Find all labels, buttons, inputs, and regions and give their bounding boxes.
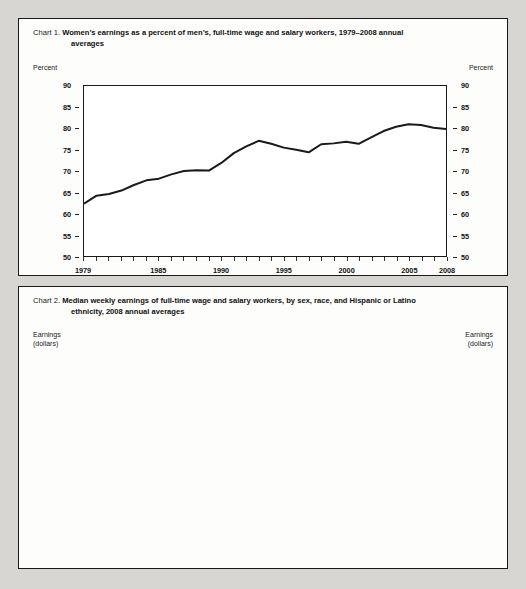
chart1-line-series bbox=[84, 86, 446, 256]
chart1-xtick-label-2000: 2000 bbox=[338, 266, 354, 275]
chart1-xtick-label-1985: 1985 bbox=[150, 266, 166, 275]
chart1-xtick-2007 bbox=[434, 257, 435, 261]
chart1-xtick-1994 bbox=[271, 257, 272, 261]
chart1-xtick-2005 bbox=[409, 257, 410, 261]
chart1-xtick-label-2008: 2008 bbox=[439, 266, 455, 275]
chart1-ytick-mark-50 bbox=[75, 257, 79, 258]
chart1-y-axis-left: 505560657075808590 bbox=[41, 85, 81, 257]
chart1-xtick-2004 bbox=[397, 257, 398, 261]
chart1-ytick-label-65: 65 bbox=[63, 188, 71, 197]
chart1-ytick-label-90: 90 bbox=[63, 81, 71, 90]
chart1-xtick-1993 bbox=[259, 257, 260, 261]
chart1-label: Chart 1. bbox=[33, 28, 60, 37]
chart1-ytick-mark-70 bbox=[453, 171, 457, 172]
chart2-axis-caption-left: Earnings (dollars) bbox=[33, 331, 61, 348]
chart1-xtick-label-1979: 1979 bbox=[75, 266, 91, 275]
chart1-ytick-label-55: 55 bbox=[461, 231, 469, 240]
chart2-title-line1: Median weekly earnings of full-time wage… bbox=[62, 296, 416, 305]
chart2-header: Chart 2. Median weekly earnings of full-… bbox=[33, 296, 495, 317]
chart1-xtick-1998 bbox=[321, 257, 322, 261]
chart1-ytick-mark-55 bbox=[75, 236, 79, 237]
chart1-ytick-label-75: 75 bbox=[461, 145, 469, 154]
chart1-ytick-mark-65 bbox=[453, 193, 457, 194]
chart1-xtick-1987 bbox=[183, 257, 184, 261]
chart1-ytick-label-75: 75 bbox=[63, 145, 71, 154]
chart1-ytick-label-70: 70 bbox=[63, 167, 71, 176]
chart1-xtick-label-1995: 1995 bbox=[276, 266, 292, 275]
page-root: Chart 1. Women’s earnings as a percent o… bbox=[0, 0, 526, 589]
chart1-xtick-1996 bbox=[296, 257, 297, 261]
chart1-xtick-1991 bbox=[234, 257, 235, 261]
chart1-ytick-label-60: 60 bbox=[461, 210, 469, 219]
chart1-ytick-mark-80 bbox=[453, 128, 457, 129]
chart1-xtick-1984 bbox=[146, 257, 147, 261]
chart1-header: Chart 1. Women’s earnings as a percent o… bbox=[33, 28, 495, 49]
chart2-panel: Chart 2. Median weekly earnings of full-… bbox=[18, 286, 508, 569]
chart1-xtick-1983 bbox=[133, 257, 134, 261]
chart1-axis-caption-left: Percent bbox=[33, 64, 57, 73]
chart1-xtick-label-1990: 1990 bbox=[213, 266, 229, 275]
chart1-xtick-1990 bbox=[221, 257, 222, 261]
chart1-xtick-label-2005: 2005 bbox=[401, 266, 417, 275]
chart1-xtick-2008 bbox=[447, 257, 448, 261]
chart1-axis-caption-right: Percent bbox=[469, 64, 493, 73]
chart1-ytick-mark-70 bbox=[75, 171, 79, 172]
chart1-ytick-mark-75 bbox=[75, 150, 79, 151]
chart2-title-line2: ethnicity, 2008 annual averages bbox=[33, 307, 495, 318]
chart1-xtick-1982 bbox=[121, 257, 122, 261]
chart1-xtick-1989 bbox=[209, 257, 210, 261]
chart2-axis-caption-left-line1: Earnings bbox=[33, 331, 61, 340]
chart1-ytick-mark-85 bbox=[75, 107, 79, 108]
chart1-xtick-2003 bbox=[384, 257, 385, 261]
chart1-ytick-label-70: 70 bbox=[461, 167, 469, 176]
chart1-xtick-1979 bbox=[83, 257, 84, 261]
chart1-xtick-1995 bbox=[284, 257, 285, 261]
chart1-title-line1: Women’s earnings as a percent of men’s, … bbox=[62, 28, 403, 37]
chart1-ytick-mark-65 bbox=[75, 193, 79, 194]
chart2-axis-caption-right-line1: Earnings bbox=[465, 331, 493, 340]
chart1-xtick-1980 bbox=[96, 257, 97, 261]
chart1-ytick-mark-60 bbox=[75, 214, 79, 215]
chart1-x-axis: 1979198519901995200020052008 bbox=[83, 257, 447, 281]
chart1-ytick-mark-55 bbox=[453, 236, 457, 237]
chart1-ytick-label-80: 80 bbox=[461, 124, 469, 133]
chart1-xtick-2002 bbox=[372, 257, 373, 261]
chart1-ytick-label-85: 85 bbox=[461, 102, 469, 111]
chart1-xtick-2000 bbox=[347, 257, 348, 261]
chart1-xtick-2006 bbox=[422, 257, 423, 261]
chart1-ytick-label-80: 80 bbox=[63, 124, 71, 133]
chart1-xtick-1986 bbox=[171, 257, 172, 261]
chart2-axis-caption-right-line2: (dollars) bbox=[465, 340, 493, 349]
chart1-xtick-1992 bbox=[246, 257, 247, 261]
chart1-xtick-2001 bbox=[359, 257, 360, 261]
chart1-ytick-mark-85 bbox=[453, 107, 457, 108]
chart1-ytick-label-65: 65 bbox=[461, 188, 469, 197]
chart1-panel: Chart 1. Women’s earnings as a percent o… bbox=[18, 18, 508, 276]
chart1-ytick-mark-50 bbox=[453, 257, 457, 258]
chart1-plot-area bbox=[83, 85, 447, 257]
chart1-xtick-1997 bbox=[309, 257, 310, 261]
chart1-ytick-label-60: 60 bbox=[63, 210, 71, 219]
chart1-xtick-1988 bbox=[196, 257, 197, 261]
chart1-y-axis-right: 505560657075808590 bbox=[451, 85, 491, 257]
chart1-title-line2: averages bbox=[33, 39, 495, 50]
chart2-axis-caption-left-line2: (dollars) bbox=[33, 340, 61, 349]
chart1-ytick-label-85: 85 bbox=[63, 102, 71, 111]
chart2-label: Chart 2. bbox=[33, 296, 60, 305]
chart1-ytick-mark-60 bbox=[453, 214, 457, 215]
chart1-ytick-mark-80 bbox=[75, 128, 79, 129]
chart1-ytick-label-50: 50 bbox=[461, 253, 469, 262]
chart1-ytick-label-50: 50 bbox=[63, 253, 71, 262]
chart1-xtick-1999 bbox=[334, 257, 335, 261]
chart1-ytick-mark-75 bbox=[453, 150, 457, 151]
chart1-xtick-1981 bbox=[108, 257, 109, 261]
chart1-xtick-1985 bbox=[158, 257, 159, 261]
chart1-ytick-label-90: 90 bbox=[461, 81, 469, 90]
chart2-axis-caption-right: Earnings (dollars) bbox=[465, 331, 493, 348]
chart1-ytick-label-55: 55 bbox=[63, 231, 71, 240]
